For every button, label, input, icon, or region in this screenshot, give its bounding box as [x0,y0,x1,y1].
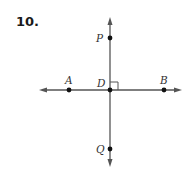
label-d: D [96,77,106,89]
point-p [108,36,113,41]
point-q [108,147,113,152]
arrow-right-icon [174,88,182,93]
label-b: B [159,74,168,86]
label-q: Q [96,143,105,156]
arrow-down-icon [108,159,113,167]
point-d [108,88,113,93]
perpendicular-lines-diagram: P A D B Q [0,0,190,169]
label-a: A [64,74,73,86]
point-a [67,88,72,93]
arrow-up-icon [108,17,113,25]
label-p: P [95,32,104,44]
arrow-left-icon [39,88,47,93]
point-b [162,88,167,93]
